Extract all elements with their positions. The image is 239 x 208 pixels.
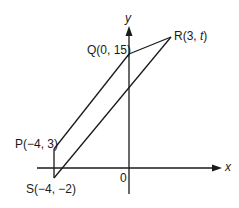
point-label-P: P(−4, 3) xyxy=(15,138,58,150)
edge-RS xyxy=(54,37,171,178)
point-label-R: R(3, t) xyxy=(174,30,207,42)
origin-label: 0 xyxy=(120,172,127,184)
y-axis-label: y xyxy=(125,12,131,24)
x-axis-arrow-icon xyxy=(212,165,222,172)
point-label-S: S(−4, −2) xyxy=(26,183,76,195)
point-label-R-suffix: ) xyxy=(203,29,207,43)
y-axis-arrow-icon xyxy=(126,26,133,36)
point-label-Q: Q(0, 15) xyxy=(87,44,131,56)
x-axis-label: x xyxy=(225,161,231,173)
point-label-R-prefix: R(3, xyxy=(174,29,200,43)
coordinate-diagram: y x 0 Q(0, 15) R(3, t) P(−4, 3) S(−4, −2… xyxy=(0,0,239,208)
